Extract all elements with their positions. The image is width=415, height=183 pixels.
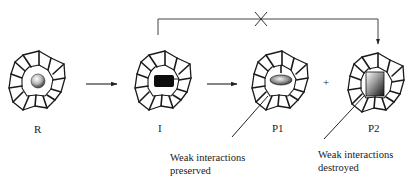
- annotation-P2: Weak interactions destroyed: [318, 148, 393, 174]
- annotation-P2-line2: destroyed: [318, 161, 393, 174]
- label-R: R: [34, 123, 41, 135]
- annotation-P2-line1: Weak interactions: [318, 148, 393, 161]
- cage-R: [9, 51, 65, 110]
- leader-line-P2: [324, 96, 364, 139]
- guest-sphere-icon: [31, 74, 45, 88]
- guest-black-box-icon: [154, 75, 174, 87]
- annotation-P1-line1: Weak interactions: [170, 151, 245, 164]
- cage-P1: [252, 51, 308, 110]
- label-I: I: [158, 122, 162, 134]
- leader-line-P1: [232, 96, 268, 137]
- guest-ellipse-icon: [270, 75, 292, 85]
- label-P2: P2: [368, 122, 380, 134]
- blocked-pathway-I-to-P2: [158, 12, 378, 44]
- annotation-P1-line2: preserved: [170, 164, 245, 177]
- label-P1: P1: [272, 122, 284, 134]
- annotation-P1: Weak interactions preserved: [170, 151, 245, 177]
- cage-I: [135, 51, 191, 110]
- plus-sign: +: [323, 76, 329, 88]
- cage-P2: [348, 53, 404, 112]
- reaction-scheme: R I P1 P2 + Weak interactions preserved …: [0, 0, 415, 183]
- guest-shaded-box-icon: [366, 72, 384, 96]
